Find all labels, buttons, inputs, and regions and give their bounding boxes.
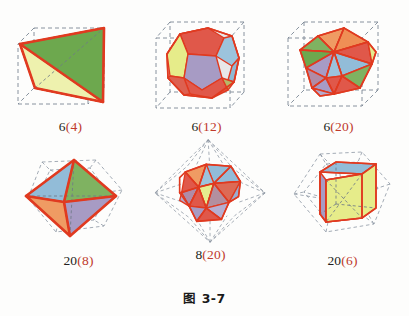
- outer-face-count: 6: [59, 119, 66, 134]
- figure-item-cube-in-dodecahedron: 20(6): [276, 140, 409, 269]
- dodecahedron-in-cube-drawing: [140, 6, 273, 118]
- figure-page: 6(4): [0, 0, 409, 316]
- inner-face-count: (20): [330, 119, 353, 134]
- octahedron-in-dodecahedron-drawing: [12, 140, 145, 252]
- inner-face-count: (4): [66, 119, 82, 134]
- figure-item-label: 6(20): [272, 119, 405, 135]
- polyhedra-grid: 6(4): [0, 0, 409, 286]
- figure-item-icosahedron-in-octahedron: 8(20): [144, 134, 277, 263]
- figure-item-label: 20(8): [12, 253, 145, 269]
- icosahedron-in-octahedron-drawing: [144, 134, 277, 246]
- cube-in-dodecahedron-drawing: [276, 140, 409, 252]
- tetrahedron-in-cube-drawing: [4, 6, 137, 118]
- inner-face-count: (20): [202, 247, 225, 262]
- figure-item-tetrahedron-in-cube: 6(4): [4, 6, 137, 135]
- figure-item-label: 6(4): [4, 119, 137, 135]
- inner-face-count: (8): [77, 253, 93, 268]
- outer-face-count: 20: [327, 253, 341, 268]
- figure-item-octahedron-in-dodecahedron: 20(8): [12, 140, 145, 269]
- figure-item-label: 6(12): [140, 119, 273, 135]
- inner-face-count: (6): [341, 253, 357, 268]
- icosahedron-in-cube-drawing: [272, 6, 405, 118]
- figure-item-dodecahedron-in-cube: 6(12): [140, 6, 273, 135]
- figure-item-label: 8(20): [144, 247, 277, 263]
- outer-face-count: 20: [63, 253, 77, 268]
- figure-item-label: 20(6): [276, 253, 409, 269]
- inner-face-count: (12): [198, 119, 221, 134]
- figure-item-icosahedron-in-cube: 6(20): [272, 6, 405, 135]
- figure-caption: 图 3-7: [0, 288, 409, 307]
- icosahedron-faces: [180, 164, 241, 221]
